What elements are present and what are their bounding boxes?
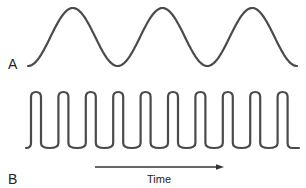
panel-label-a: A [8,57,17,71]
waveform-figure [0,0,306,188]
time-arrow [95,164,224,170]
panel-label-b: B [8,172,17,186]
time-axis-label: Time [147,174,171,185]
wave-b-high-frequency [26,92,299,148]
arrowhead-icon [216,164,224,170]
wave-a-low-frequency [28,8,297,66]
